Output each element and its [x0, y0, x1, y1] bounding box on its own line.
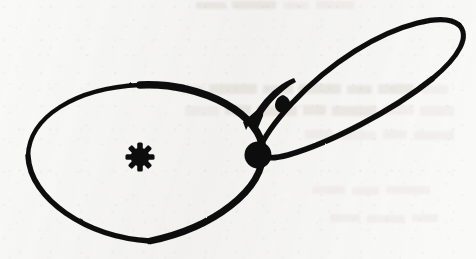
- sun-symbol: [126, 143, 155, 172]
- orbital-diagram-figure: [0, 0, 476, 259]
- outer-orbit-ellipse: [258, 20, 463, 158]
- orbital-node-dot: [245, 142, 272, 169]
- diagram-canvas: [0, 0, 476, 259]
- orbiting-body-marker: [275, 95, 290, 113]
